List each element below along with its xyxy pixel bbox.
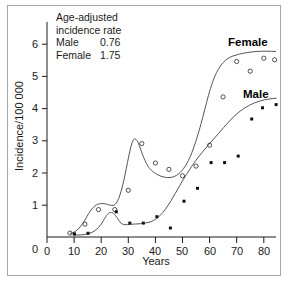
male-data-points	[73, 103, 278, 235]
y-tick-label-0: 0	[24, 243, 38, 255]
series-label-female: Female	[228, 36, 268, 48]
annotation-line-1: Age-adjusted	[56, 11, 121, 24]
x-axis-title: Years	[47, 255, 265, 267]
x-axis-ticks	[47, 237, 264, 243]
annotation-female-value: 1.75	[100, 49, 120, 62]
annotation-male-value: 0.76	[100, 36, 120, 49]
annotation-line-2: incidence rate	[56, 24, 121, 37]
y-tick-label-3: 3	[24, 134, 38, 146]
series-label-male: Male	[243, 88, 269, 100]
y-axis-ticks	[42, 44, 47, 205]
y-tick-label-5: 5	[24, 70, 38, 82]
female-trend-curve	[70, 51, 276, 233]
annotation-male-key: Male	[56, 36, 100, 49]
y-axis-title: Incidence/100 000	[13, 66, 25, 186]
chart-figure: 6 5 4 3 2 1 0 0 10 20 30 40 50 60 70 80 …	[0, 0, 289, 283]
annotation-female-row: Female 1.75	[56, 49, 121, 62]
y-tick-label-6: 6	[24, 38, 38, 50]
male-trend-curve	[73, 98, 277, 235]
annotation-male-row: Male 0.76	[56, 36, 121, 49]
y-tick-label-2: 2	[24, 167, 38, 179]
annotation-female-key: Female	[56, 49, 100, 62]
annotation-box: Age-adjusted incidence rate Male 0.76 Fe…	[56, 11, 121, 61]
fitted-curves	[70, 51, 277, 235]
y-tick-label-4: 4	[24, 102, 38, 114]
y-tick-label-1: 1	[24, 199, 38, 211]
female-data-points	[68, 56, 277, 235]
